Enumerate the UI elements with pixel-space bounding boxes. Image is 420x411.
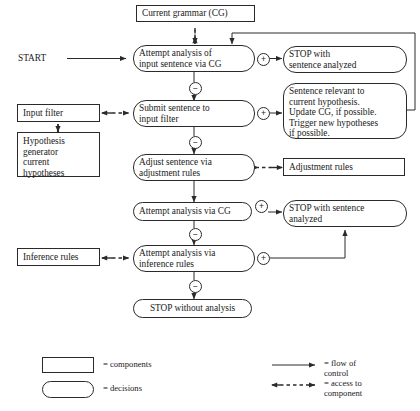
node-submit-sentence-to-input-filter[interactable]: Submit sentence to input filter [133,100,255,127]
node-inference-rules[interactable]: Inference rules [17,248,100,266]
minus-sign-attempt-cg2: − [189,228,202,241]
node-hypothesis-generator[interactable]: Hypothesis generator current hypotheses [17,132,100,177]
plus-sign-submit: + [257,107,270,120]
legend-label-flow-of-control: = flow of control [324,359,356,379]
legend-label-decisions: = decisions [103,384,142,394]
minus-sign-inference: − [189,280,202,293]
node-stop-without-analysis[interactable]: STOP without analysis [133,299,252,318]
legend-swatch-decisions [42,381,94,398]
legend-label-components: = components [103,360,152,370]
node-stop-with-sentence-analyzed-1[interactable]: STOP with sentence analyzed [283,46,407,73]
flowchart-diagram: START Current grammar (CG) Input filter … [0,0,420,411]
node-current-grammar[interactable]: Current grammar (CG) [136,5,255,22]
node-attempt-analysis-via-cg[interactable]: Attempt analysis via CG [133,202,252,221]
node-sentence-relevant-update-cg[interactable]: Sentence relevant to current hypothesis.… [283,83,407,139]
node-adjust-sentence-via-adjustment-rules[interactable]: Adjust sentence via adjustment rules [133,154,255,181]
plus-sign-attempt-cg2: + [255,200,268,213]
node-stop-with-sentence-analyzed-2[interactable]: STOP with sentence analyzed [283,200,407,227]
minus-sign-submit: − [189,136,202,149]
node-input-filter[interactable]: Input filter [17,104,100,122]
node-adjustment-rules[interactable]: Adjustment rules [283,158,405,176]
legend-swatch-components [42,357,94,373]
start-label: START [18,53,46,64]
plus-sign-attempt-cg: + [257,53,270,66]
plus-sign-inference: + [257,252,270,265]
minus-sign-attempt-cg: − [189,82,202,95]
node-attempt-analysis-input-sentence-cg[interactable]: Attempt analysis of input sentence via C… [133,45,255,72]
legend-label-access-to-component: = access to component [324,379,362,399]
node-attempt-analysis-via-inference-rules[interactable]: Attempt analysis via inference rules [133,245,255,272]
edge-inference-plus-to-stop2 [270,230,345,258]
